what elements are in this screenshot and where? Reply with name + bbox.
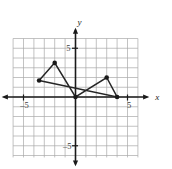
y-axis-tick-label-negative-5: –5 [62,141,72,151]
x-axis-tick-label-negative-5: –5 [19,100,29,110]
x-axis-arrow-left [2,94,8,99]
y-axis-arrow-down [73,160,78,166]
y-axis-tick-label-5: 5 [66,43,70,53]
y-axis-label: y [77,17,82,27]
x-axis-label: x [154,92,159,102]
y-axis-arrow-up [73,28,78,34]
x-axis-tick-label-5: 5 [127,100,131,110]
polygon-vertex [115,95,120,100]
polygon-vertex [52,61,57,66]
polygon-vertex [73,95,78,100]
coordinate-plane-svg: –5 5 5 –5 x y [0,0,172,169]
axis-name-labels: x y [77,17,160,102]
polygon-vertex [104,75,109,80]
coordinate-plane-figure: –5 5 5 –5 x y [0,0,172,169]
polygon-vertex [37,78,42,83]
x-axis-arrow-right [143,94,149,99]
